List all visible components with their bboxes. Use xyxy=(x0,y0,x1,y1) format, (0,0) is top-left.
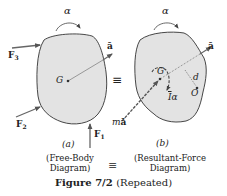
distance-label: d xyxy=(193,73,199,82)
angular-acceleration-arc-b xyxy=(154,23,178,30)
center-of-mass-dot-a xyxy=(67,80,70,83)
equivalence-symbol-caption: ≡ xyxy=(108,160,117,171)
caption-b: (Resultant-Force Diagram) xyxy=(128,154,212,173)
caption-a-line2: Diagram) xyxy=(40,164,100,174)
alpha-label-b: α xyxy=(162,6,169,16)
force-f3-arrow xyxy=(12,45,40,48)
acceleration-label-b: ā xyxy=(208,42,214,51)
figure-title: Figure 7/2 (Repeated) xyxy=(0,177,227,188)
acceleration-arrow-a xyxy=(103,54,112,60)
caption-b-line2: Diagram) xyxy=(128,164,212,174)
figure-repeated-note: (Repeated) xyxy=(116,177,172,188)
force-f1-subscript: 1 xyxy=(100,133,104,140)
acceleration-label-a: ā xyxy=(107,42,113,51)
force-f2-subscript: 2 xyxy=(22,123,26,130)
force-f3-subscript: 3 xyxy=(14,54,18,61)
panel-b-tag: (b) xyxy=(156,139,169,148)
panel-a-tag: (a) xyxy=(62,140,74,149)
mass-symbol: m xyxy=(112,117,121,127)
acceleration-symbol: ā xyxy=(121,117,127,127)
equivalence-symbol-top: ≡ xyxy=(112,74,122,86)
force-f2-arrow xyxy=(16,107,40,117)
angular-acceleration-arc-a xyxy=(56,23,80,31)
resultant-force-label: mā xyxy=(112,118,126,127)
point-o-label: O xyxy=(191,89,198,98)
force-f3-label: F3 xyxy=(8,51,19,61)
center-of-mass-dot-b xyxy=(159,78,162,81)
figure-number: Figure 7/2 xyxy=(55,177,113,188)
moment-label: Iα xyxy=(168,93,178,102)
force-f2-label: F2 xyxy=(16,120,27,130)
caption-a: (Free-Body Diagram) xyxy=(40,154,100,173)
force-f1-label: F1 xyxy=(94,130,105,140)
moment-alpha-symbol: α xyxy=(172,92,178,102)
alpha-label-a: α xyxy=(64,6,71,16)
center-of-mass-label-a: G xyxy=(56,76,63,85)
center-of-mass-label-b: G xyxy=(157,67,164,76)
